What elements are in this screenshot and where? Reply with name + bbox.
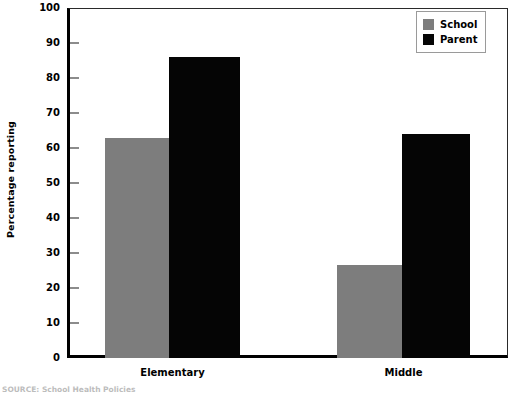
- y-tick-label: 80: [20, 73, 60, 83]
- y-tick-label: 0: [20, 353, 60, 363]
- y-axis-title-text: Percentage reporting: [5, 121, 16, 238]
- legend-swatch-icon: [423, 19, 434, 30]
- legend-item-school: School: [423, 17, 477, 32]
- bar-elementary-school: [105, 138, 169, 359]
- legend: SchoolParent: [416, 11, 486, 53]
- y-tick-label: 60: [20, 143, 60, 153]
- legend-item-parent: Parent: [423, 32, 477, 47]
- bar-middle-school: [337, 265, 402, 358]
- y-tick-label: 50: [20, 178, 60, 188]
- y-tick-label: 70: [20, 108, 60, 118]
- legend-label: Parent: [440, 35, 477, 45]
- bars-layer: [70, 9, 507, 358]
- bar-elementary-parent: [169, 57, 240, 358]
- y-tick-label: 20: [20, 283, 60, 293]
- y-tick-label: 10: [20, 318, 60, 328]
- y-tick-label: 90: [20, 38, 60, 48]
- y-tick-label: 30: [20, 248, 60, 258]
- source-note: SOURCE: School Health Policies: [2, 385, 135, 393]
- bar-chart-figure: Percentage reporting 1009080706050403020…: [0, 0, 522, 393]
- legend-swatch-icon: [423, 34, 434, 45]
- y-tick-label: 100: [20, 3, 60, 13]
- x-tick-label-elementary: Elementary: [140, 367, 204, 378]
- bar-middle-parent: [402, 134, 470, 358]
- x-tick-label-middle: Middle: [385, 367, 423, 378]
- y-tick-label: 40: [20, 213, 60, 223]
- y-axis-title: Percentage reporting: [0, 0, 20, 358]
- legend-label: School: [440, 20, 477, 30]
